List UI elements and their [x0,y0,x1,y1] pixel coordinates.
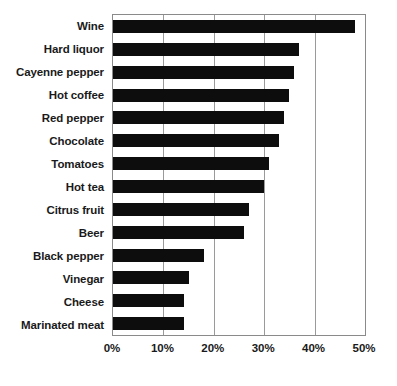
bar-cayenne-pepper [113,66,294,79]
bar-row [113,152,365,175]
bars-layer [113,15,365,335]
bar-row [113,175,365,198]
y-axis-tick-row: Chocolate [0,129,109,152]
y-axis-label-black-pepper: Black pepper [33,250,104,262]
bar-row [113,289,365,312]
bar-row [113,61,365,84]
y-axis-label-wine: Wine [77,20,104,32]
y-axis-label-chocolate: Chocolate [49,135,104,147]
bar-row [113,38,365,61]
x-axis-tick-20pct: 20% [201,342,224,354]
bar-tomatoes [113,157,269,170]
x-axis-tick-labels: 0%10%20%30%40%50% [112,342,366,362]
bar-row [113,244,365,267]
bar-black-pepper [113,249,204,262]
bar-row [113,198,365,221]
y-axis-label-citrus-fruit: Citrus fruit [46,204,104,216]
x-axis-tick-10pct: 10% [151,342,174,354]
bar-row [113,84,365,107]
y-axis-label-red-pepper: Red pepper [42,112,104,124]
gridline-50pct [365,15,366,335]
bar-beer [113,226,244,239]
bar-hard-liquor [113,43,299,56]
bar-citrus-fruit [113,203,249,216]
y-axis-label-hard-liquor: Hard liquor [44,43,104,55]
bar-wine [113,20,355,33]
bar-row [113,266,365,289]
y-axis-tick-row: Red pepper [0,106,109,129]
y-axis-label-marinated-meat: Marinated meat [21,319,104,331]
bar-row [113,15,365,38]
y-axis-label-hot-coffee: Hot coffee [49,89,104,101]
y-axis-tick-row: Beer [0,221,109,244]
y-axis-label-cayenne-pepper: Cayenne pepper [16,66,104,78]
y-axis-tick-row: Hot tea [0,175,109,198]
y-axis-category-labels: Wine Hard liquor Cayenne pepper Hot coff… [0,14,109,336]
y-axis-tick-row: Citrus fruit [0,198,109,221]
x-axis-tick-50pct: 50% [352,342,375,354]
y-axis-tick-row: Tomatoes [0,152,109,175]
y-axis-tick-row: Black pepper [0,244,109,267]
bar-hot-coffee [113,89,289,102]
bar-vinegar [113,271,189,284]
bar-cheese [113,294,184,307]
x-axis-tick-0pct: 0% [104,342,121,354]
bar-chocolate [113,134,279,147]
bar-row [113,129,365,152]
x-axis-tick-40pct: 40% [302,342,325,354]
y-axis-tick-row: Vinegar [0,267,109,290]
bar-row [113,221,365,244]
bar-marinated-meat [113,317,184,330]
y-axis-tick-row: Hot coffee [0,83,109,106]
y-axis-label-cheese: Cheese [64,296,104,308]
y-axis-tick-row: Cayenne pepper [0,60,109,83]
y-axis-label-beer: Beer [79,227,104,239]
bar-row [113,106,365,129]
bar-red-pepper [113,111,284,124]
x-axis-tick-30pct: 30% [252,342,275,354]
y-axis-label-vinegar: Vinegar [63,273,104,285]
y-axis-tick-row: Hard liquor [0,37,109,60]
y-axis-tick-row: Cheese [0,290,109,313]
y-axis-tick-row: Marinated meat [0,313,109,336]
bar-hot-tea [113,180,264,193]
bar-chart: Wine Hard liquor Cayenne pepper Hot coff… [0,0,397,386]
bar-row [113,312,365,335]
plot-area [112,14,366,336]
y-axis-tick-row: Wine [0,14,109,37]
y-axis-label-tomatoes: Tomatoes [51,158,104,170]
y-axis-label-hot-tea: Hot tea [66,181,104,193]
